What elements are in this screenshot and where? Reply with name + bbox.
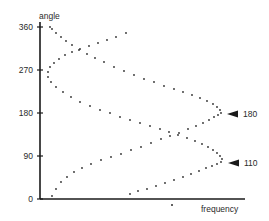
- data-point: [71, 51, 73, 53]
- data-point: [129, 119, 131, 121]
- data-point: [178, 132, 180, 134]
- data-point: [100, 159, 102, 161]
- data-point: [199, 97, 201, 99]
- data-point: [60, 36, 62, 38]
- data-point: [205, 167, 207, 169]
- data-point: [79, 48, 81, 50]
- data-point: [47, 71, 49, 73]
- data-point: [182, 91, 184, 93]
- data-point: [195, 125, 197, 127]
- data-point: [125, 32, 127, 34]
- data-point: [160, 138, 162, 140]
- data-point: [169, 135, 171, 137]
- y-tick-labels: 360 270 180 90 0: [19, 22, 33, 204]
- data-point: [190, 173, 192, 175]
- data-point: [187, 128, 189, 130]
- data-point: [50, 81, 52, 83]
- data-point: [153, 81, 155, 83]
- data-point: [216, 163, 218, 165]
- tick-label-270: 270: [19, 65, 33, 75]
- data-point: [55, 86, 57, 88]
- tick-label-180: 180: [19, 108, 33, 118]
- curve-110: [47, 32, 223, 195]
- data-point: [113, 66, 115, 68]
- data-point: [53, 62, 55, 64]
- data-point: [159, 128, 161, 130]
- tick-label-90: 90: [24, 151, 34, 161]
- chart-canvas: 360 270 180 90 0 angle frequency 180 110: [0, 0, 269, 221]
- data-point: [51, 195, 53, 197]
- data-point: [123, 70, 125, 72]
- data-point: [191, 94, 193, 96]
- data-point: [220, 161, 222, 163]
- data-point: [55, 32, 57, 34]
- data-point: [88, 45, 90, 47]
- data-point: [150, 142, 152, 144]
- arrowhead-icon: [227, 111, 238, 118]
- data-point: [66, 176, 68, 178]
- data-point: [103, 61, 105, 63]
- data-point: [73, 171, 75, 173]
- data-point: [115, 36, 117, 38]
- data-point: [49, 66, 51, 68]
- data-point: [62, 91, 64, 93]
- data-point: [168, 131, 170, 133]
- data-point: [90, 163, 92, 165]
- stray-mark: [171, 204, 173, 206]
- y-axis-label: angle: [39, 11, 60, 21]
- stray-dot: [171, 204, 173, 206]
- data-point: [86, 53, 88, 55]
- data-point: [58, 58, 60, 60]
- annotation-label-180: 180: [243, 109, 257, 119]
- data-point: [99, 109, 101, 111]
- data-point: [219, 109, 221, 111]
- data-point: [146, 188, 148, 190]
- data-point: [64, 54, 66, 56]
- data-point: [213, 116, 215, 118]
- data-point: [139, 122, 141, 124]
- data-point: [163, 85, 165, 87]
- data-point: [186, 137, 188, 139]
- data-point: [49, 26, 51, 28]
- data-point: [130, 149, 132, 151]
- data-point: [208, 119, 210, 121]
- curve-180: [49, 26, 222, 197]
- data-point: [89, 105, 91, 107]
- tick-label-0: 0: [28, 194, 33, 204]
- data-point: [216, 152, 218, 154]
- data-point: [133, 74, 135, 76]
- data-point: [70, 96, 72, 98]
- data-point: [140, 146, 142, 148]
- data-point: [109, 112, 111, 114]
- data-point: [173, 88, 175, 90]
- data-point: [182, 176, 184, 178]
- data-point: [220, 112, 222, 114]
- data-point: [216, 106, 218, 108]
- data-point: [173, 179, 175, 181]
- arrowhead-icon: [228, 160, 239, 167]
- data-point: [119, 116, 121, 118]
- data-point: [207, 146, 209, 148]
- data-point: [79, 101, 81, 103]
- data-point: [212, 103, 214, 105]
- data-point: [60, 181, 62, 183]
- data-point: [221, 158, 223, 160]
- data-point: [81, 167, 83, 169]
- data-point: [202, 122, 204, 124]
- data-point: [97, 42, 99, 44]
- data-point: [120, 153, 122, 155]
- data-point: [51, 28, 53, 30]
- data-point: [65, 40, 67, 42]
- data-point: [149, 125, 151, 127]
- data-point: [212, 149, 214, 151]
- data-point: [194, 140, 196, 142]
- data-point: [177, 134, 179, 136]
- x-axis-label: frequency: [201, 204, 239, 214]
- annotation-180: 180: [227, 109, 257, 119]
- data-point: [211, 165, 213, 167]
- data-point: [71, 44, 73, 46]
- data-point: [94, 57, 96, 59]
- data-point: [217, 114, 219, 116]
- annotation-label-110: 110: [244, 158, 258, 168]
- data-point: [164, 182, 166, 184]
